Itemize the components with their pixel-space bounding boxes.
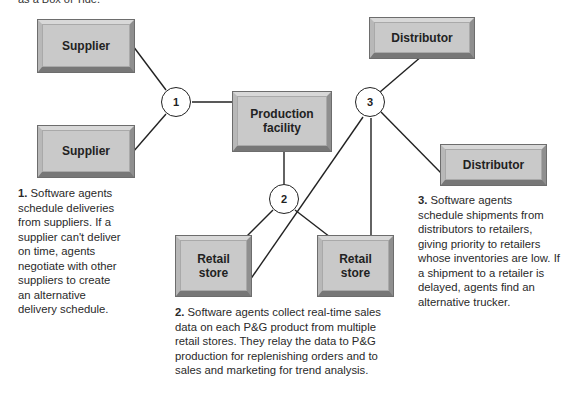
agent-number: 2 — [281, 193, 287, 205]
note-number: 1. — [18, 187, 27, 199]
supplier-label: Supplier — [62, 144, 110, 158]
agent-number: 1 — [173, 96, 179, 108]
retail-store-label: Retail store — [192, 252, 236, 280]
retail-store-box-left: Retail store — [176, 236, 251, 296]
distributor-box-right: Distributor — [441, 145, 546, 185]
agent-circle-1: 1 — [161, 87, 191, 117]
note-text: Software agents collect real-time sales … — [175, 306, 381, 376]
note-text: Software agents schedule deliveries from… — [18, 187, 121, 315]
distributor-label: Distributor — [463, 158, 524, 172]
supplier-label: Supplier — [62, 39, 110, 53]
production-facility-box: Production facility — [233, 92, 331, 151]
note-text: Software agents schedule shipments from … — [418, 194, 560, 308]
note-2: 2. Software agents collect real-time sal… — [175, 305, 395, 378]
distributor-label: Distributor — [391, 31, 452, 45]
retail-store-box-right: Retail store — [318, 236, 393, 296]
note-number: 3. — [418, 194, 427, 206]
supplier-box-bottom: Supplier — [38, 126, 134, 177]
note-3: 3. Software agents schedule shipments fr… — [418, 193, 560, 309]
agent-number: 3 — [367, 96, 373, 108]
agent-circle-3: 3 — [355, 87, 385, 117]
agent-circle-2: 2 — [269, 184, 299, 214]
note-number: 2. — [175, 306, 184, 318]
production-facility-label: Production facility — [247, 107, 317, 135]
retail-store-label: Retail store — [334, 252, 378, 280]
supplier-box-top: Supplier — [38, 20, 134, 72]
note-1: 1. Software agents schedule deliveries f… — [18, 186, 123, 317]
distributor-box-top: Distributor — [370, 18, 474, 58]
